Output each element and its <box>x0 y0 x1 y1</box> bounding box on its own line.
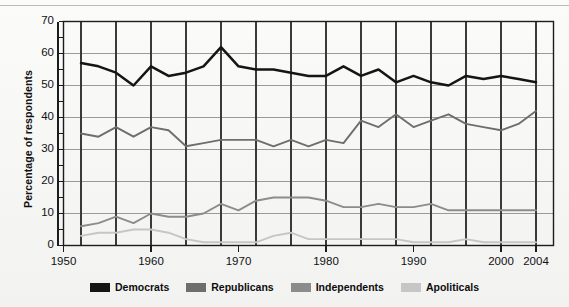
legend-swatch-democrats <box>90 283 110 292</box>
axis-major-ticks <box>64 246 537 252</box>
line-chart-plot <box>0 0 569 307</box>
legend-swatch-apoliticals <box>401 283 421 292</box>
series-line-independents <box>81 198 536 227</box>
legend-label: Independents <box>316 281 384 293</box>
chart-figure: Percentage of respondents 01020304050607… <box>0 0 569 307</box>
legend-label: Apoliticals <box>426 281 479 293</box>
legend-label: Democrats <box>115 281 169 293</box>
legend-item-democrats: Democrats <box>90 281 169 293</box>
legend-swatch-independents <box>291 283 311 292</box>
y-axis-minor-ticks <box>58 22 64 246</box>
series-line-apoliticals <box>81 230 536 243</box>
series-line-democrats <box>81 47 536 85</box>
legend-label: Republicans <box>211 281 273 293</box>
legend-item-apoliticals: Apoliticals <box>401 281 479 293</box>
series-line-republicans <box>81 111 536 146</box>
legend-item-independents: Independents <box>291 281 384 293</box>
plot-area-frame <box>64 22 554 246</box>
gridlines <box>64 22 554 246</box>
legend-item-republicans: Republicans <box>186 281 273 293</box>
legend-swatch-republicans <box>186 283 206 292</box>
chart-legend: DemocratsRepublicansIndependentsApolitic… <box>0 281 569 293</box>
